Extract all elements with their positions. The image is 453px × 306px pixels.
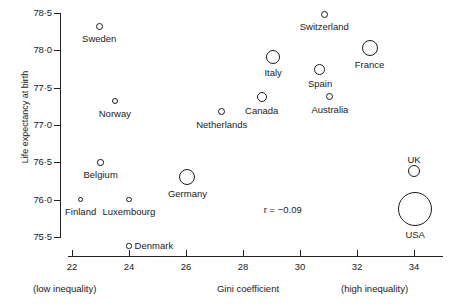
y-axis-tick <box>54 125 60 126</box>
scatter-plot-figure: 75·576·076·577·077·578·078·5 22242628303… <box>0 0 453 306</box>
y-axis-title: Life expectancy at birth <box>20 37 30 197</box>
y-axis-tick <box>54 162 60 163</box>
data-point-label-finland: Finland <box>65 206 96 217</box>
plot-area: 75·576·076·577·077·578·078·5 22242628303… <box>0 0 453 306</box>
low-inequality-note: (low inequality) <box>33 283 96 294</box>
y-axis-tick-label: 77·0 <box>33 120 52 130</box>
x-axis-tick-label: 32 <box>344 261 370 272</box>
y-axis-tick-label: 78·0 <box>33 45 52 55</box>
y-axis-tick <box>54 200 60 201</box>
y-axis-tick-label: 75·5 <box>33 232 52 242</box>
data-point-luxembourg <box>126 197 131 202</box>
data-point-france <box>362 40 378 56</box>
data-point-label-switzerland: Switzerland <box>300 21 349 32</box>
data-point-italy <box>266 50 280 64</box>
data-point-netherlands <box>218 108 225 115</box>
data-point-label-canada: Canada <box>245 105 278 116</box>
data-point-label-italy: Italy <box>264 67 281 78</box>
data-point-usa <box>398 192 432 226</box>
x-axis-tick <box>72 250 73 256</box>
data-point-label-germany: Germany <box>168 188 207 199</box>
data-point-label-luxembourg: Luxembourg <box>103 206 156 217</box>
data-point-spain <box>314 64 325 75</box>
x-axis-tick <box>300 250 301 256</box>
x-axis-tick-label: 34 <box>401 261 427 272</box>
high-inequality-note: (high inequality) <box>341 283 408 294</box>
data-point-label-belgium: Belgium <box>84 169 118 180</box>
data-point-label-france: France <box>355 59 385 70</box>
x-axis-spine <box>68 256 443 257</box>
x-axis-tick-label: 30 <box>287 261 313 272</box>
x-axis-title: Gini coefficient <box>193 283 303 294</box>
x-axis-tick-label: 22 <box>59 261 85 272</box>
x-axis-tick-label: 28 <box>230 261 256 272</box>
data-point-germany <box>179 169 195 185</box>
data-point-denmark <box>126 243 131 248</box>
x-axis-tick <box>129 250 130 256</box>
y-axis-tick <box>54 88 60 89</box>
data-point-canada <box>257 92 267 102</box>
data-point-label-spain: Spain <box>308 78 332 89</box>
y-axis-spine <box>60 13 61 238</box>
data-point-switzerland <box>321 11 328 18</box>
y-axis-tick-label: 76·5 <box>33 157 52 167</box>
data-point-label-denmark: Denmark <box>135 240 174 251</box>
data-point-uk <box>408 165 420 177</box>
data-point-label-usa: USA <box>405 229 425 240</box>
x-axis-tick <box>414 250 415 256</box>
y-axis-tick-label: 77·5 <box>33 83 52 93</box>
x-axis-tick <box>357 250 358 256</box>
x-axis-tick <box>186 250 187 256</box>
data-point-label-netherlands: Netherlands <box>196 119 247 130</box>
x-axis-tick-label: 24 <box>116 261 142 272</box>
y-axis-tick <box>54 50 60 51</box>
y-axis-tick <box>54 237 60 238</box>
correlation-annotation: r = −0.09 <box>264 204 302 215</box>
data-point-belgium <box>97 159 103 165</box>
data-point-label-sweden: Sweden <box>82 33 116 44</box>
data-point-australia <box>326 93 333 100</box>
x-axis-tick <box>243 250 244 256</box>
data-point-sweden <box>96 23 103 30</box>
data-point-label-australia: Australia <box>311 104 348 115</box>
data-point-label-norway: Norway <box>99 108 131 119</box>
data-point-finland <box>78 197 83 202</box>
y-axis-tick-label: 76·0 <box>33 195 52 205</box>
data-point-label-uk: UK <box>408 154 421 165</box>
data-point-norway <box>112 98 118 104</box>
y-axis-tick-label: 78·5 <box>33 8 52 18</box>
x-axis-tick-label: 26 <box>173 261 199 272</box>
y-axis-tick <box>54 13 60 14</box>
